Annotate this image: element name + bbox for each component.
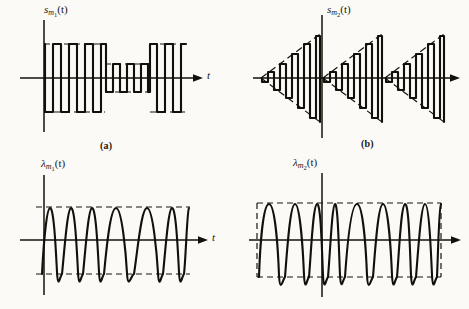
- caption-b: (b): [361, 138, 374, 149]
- caption-a: (a): [100, 140, 112, 151]
- panel-top-left: sm1(t) t: [0, 0, 235, 145]
- waveform-sm2-burst-1: [262, 36, 320, 122]
- x-axis-top-left: [20, 74, 203, 82]
- signal-label-lambda-m1: λm1(t): [41, 158, 65, 173]
- waveform-lambda-m2-burst-3: [416, 204, 441, 285]
- waveform-lambda-m1: [42, 208, 189, 282]
- signal-label-lambda-m2: λm2(t): [293, 157, 317, 172]
- panel-bottom-right: λm2(t): [235, 155, 469, 309]
- panel-top-right: sm2(t): [235, 0, 469, 145]
- plot-bottom-left: [0, 155, 235, 309]
- waveform-lambda-m2-burst-1: [259, 204, 340, 285]
- plot-top-right: [235, 0, 469, 145]
- signal-label-sm2: sm2(t): [327, 4, 351, 19]
- waveform-lambda-m2-burst-2: [340, 204, 416, 285]
- waveform-sm2-burst-2: [324, 36, 382, 122]
- x-axis-label-top-left: t: [207, 70, 210, 81]
- panel-bottom-left: λm1(t) t: [0, 155, 235, 309]
- plot-bottom-right: [235, 155, 469, 309]
- plot-top-left: [0, 0, 235, 145]
- figure-root: sm1(t) t: [0, 0, 469, 309]
- signal-label-sm1: sm1(t): [44, 4, 68, 19]
- x-axis-bottom-left: [20, 236, 208, 244]
- x-axis-label-bottom-left: t: [212, 232, 215, 243]
- waveform-sm2-burst-3: [386, 36, 444, 122]
